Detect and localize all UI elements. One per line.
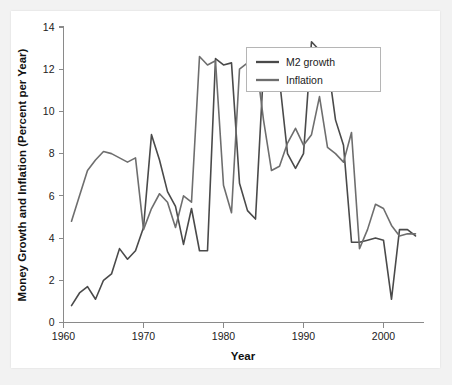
y-tick-label: 12 <box>43 63 55 75</box>
chart-page: 02468101214 19601970198019902000 Year Mo… <box>0 0 452 385</box>
x-tick-label: 2000 <box>372 330 396 342</box>
y-axis-tick-labels: 02468101214 <box>43 21 55 329</box>
x-axis-tick-labels: 19601970198019902000 <box>52 330 396 342</box>
x-tick-label: 1960 <box>52 330 76 342</box>
y-tick-label: 4 <box>49 232 55 244</box>
legend-label-m2-growth: M2 growth <box>286 56 335 68</box>
y-axis-title: Money Growth and Inflation (Percent per … <box>16 48 28 301</box>
y-axis-ticks <box>59 27 64 323</box>
x-tick-label: 1990 <box>292 330 316 342</box>
y-tick-label: 0 <box>49 316 55 328</box>
y-tick-label: 10 <box>43 105 55 117</box>
x-tick-label: 1970 <box>132 330 156 342</box>
y-tick-label: 14 <box>43 21 55 33</box>
chart-legend[interactable]: M2 growth Inflation <box>247 48 381 92</box>
line-chart: 02468101214 19601970198019902000 Year Mo… <box>11 11 440 368</box>
legend-label-inflation: Inflation <box>286 74 323 86</box>
chart-card: 02468101214 19601970198019902000 Year Mo… <box>11 11 440 368</box>
x-tick-label: 1980 <box>212 330 236 342</box>
x-axis-title: Year <box>231 350 256 362</box>
y-tick-label: 8 <box>49 147 55 159</box>
x-axis-ticks <box>64 323 384 328</box>
y-tick-label: 6 <box>49 190 55 202</box>
y-tick-label: 2 <box>49 274 55 286</box>
